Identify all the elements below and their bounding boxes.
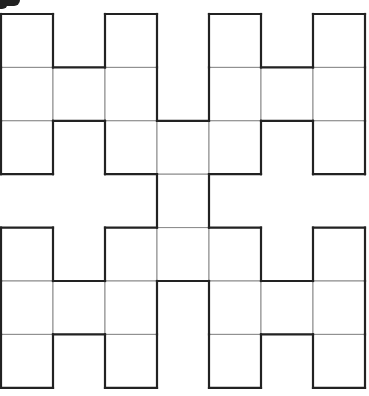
grid-cell <box>105 67 157 120</box>
grid-cell <box>1 121 53 174</box>
grid-figure <box>0 0 369 396</box>
h-fractal-diagram <box>0 0 369 396</box>
grid-cell <box>157 174 209 227</box>
grid-cell <box>1 334 53 387</box>
grid-cell <box>209 121 261 174</box>
grid-cell <box>313 228 365 281</box>
grid-cell <box>53 67 105 120</box>
grid-cell <box>105 281 157 334</box>
grid-cell <box>209 67 261 120</box>
grid-cell <box>313 281 365 334</box>
grid-cell <box>53 281 105 334</box>
grid-cell <box>209 14 261 67</box>
grid-cell <box>313 67 365 120</box>
grid-cell <box>1 228 53 281</box>
grid-cell <box>105 121 157 174</box>
grid-cell <box>157 121 209 174</box>
grid-cell <box>1 14 53 67</box>
grid-cell <box>105 228 157 281</box>
grid-cell <box>105 334 157 387</box>
grid-cell <box>261 67 313 120</box>
grid-cell <box>313 334 365 387</box>
grid-cell <box>209 228 261 281</box>
grid-cell <box>313 14 365 67</box>
grid-cell <box>157 228 209 281</box>
grid-cell <box>209 281 261 334</box>
grid-cell <box>105 14 157 67</box>
grid-cell <box>313 121 365 174</box>
grid-cell <box>209 334 261 387</box>
grid-cell <box>261 281 313 334</box>
grid-cell <box>1 67 53 120</box>
grid-cell <box>1 281 53 334</box>
